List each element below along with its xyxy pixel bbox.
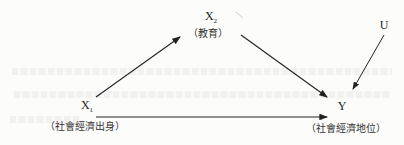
node-x1: X1 — [81, 98, 93, 114]
node-x1-symbol: X — [81, 98, 90, 112]
edge-x2-y — [241, 35, 327, 97]
node-x2-symbol: X — [205, 9, 214, 23]
edge-u-y — [353, 35, 384, 89]
node-x1-label: （社會經濟出身） — [45, 118, 125, 133]
node-x2: X2 — [205, 9, 217, 25]
node-x1-subscript: 1 — [90, 106, 94, 114]
edge-x1-x2 — [96, 37, 180, 97]
node-x2-label: （教育） — [188, 25, 228, 40]
node-y-label: （社會經濟地位） — [306, 120, 386, 135]
path-diagram: X1 （社會經濟出身） X2 （教育） U Y （社會經濟地位） — [0, 0, 404, 145]
smudge-mark — [236, 12, 243, 18]
node-u: U — [380, 18, 389, 33]
node-y: Y — [338, 99, 347, 114]
